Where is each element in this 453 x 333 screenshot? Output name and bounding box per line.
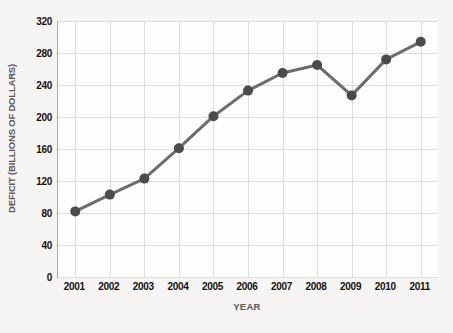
series-line	[75, 42, 420, 212]
y-axis-title-text: DEFICIT (BILLIONS OF DOLLARS)	[6, 64, 17, 213]
data-point-marker: 2001: 82	[70, 206, 80, 216]
y-axis-tick-label: 240	[36, 80, 52, 91]
y-axis-tick-label: 40	[41, 240, 52, 251]
x-axis-tick-label: 2007	[271, 281, 292, 292]
x-axis-title: YEAR	[57, 301, 437, 312]
data-point-marker: 2006: 233	[243, 86, 253, 96]
x-axis-tick-label: 2010	[375, 281, 396, 292]
deficit-series-svg: 2001: 822002: 1032003: 1232004: 1612005:…	[58, 21, 438, 277]
data-point-marker: 2005: 201	[208, 111, 218, 121]
x-axis-tick-label: 2005	[202, 281, 223, 292]
y-axis-tick-label: 120	[36, 176, 52, 187]
x-axis-tick-label: 2009	[340, 281, 361, 292]
data-point-marker: 2003: 123	[139, 174, 149, 184]
plot-area: 2001: 822002: 1032003: 1232004: 1612005:…	[57, 21, 438, 278]
data-point-marker: 2011: 294	[416, 37, 426, 47]
data-point-marker: 2004: 161	[174, 143, 184, 153]
y-axis-tick-label: 160	[36, 144, 52, 155]
data-point-marker: 2007: 255	[278, 68, 288, 78]
y-axis-title: DEFICIT (BILLIONS OF DOLLARS)	[0, 0, 22, 277]
data-point-marker: 2002: 103	[105, 190, 115, 200]
y-axis-tick-label: 200	[36, 112, 52, 123]
data-point-marker: 2010: 272	[381, 54, 391, 64]
x-axis-tick-label: 2003	[133, 281, 154, 292]
data-point-marker: 2008: 265	[312, 60, 322, 70]
y-axis-tick-label: 0	[47, 272, 52, 283]
x-axis-tick-label: 2011	[409, 281, 430, 292]
x-axis-tick-label: 2008	[306, 281, 327, 292]
y-axis-tick-label: 80	[41, 208, 52, 219]
x-axis-tick-label: 2001	[64, 281, 85, 292]
y-axis-tick-label: 280	[36, 48, 52, 59]
data-point-marker: 2009: 227	[347, 90, 357, 100]
deficit-line-chart: DEFICIT (BILLIONS OF DOLLARS) 0408012016…	[0, 0, 453, 333]
x-axis-tick-label: 2004	[167, 281, 188, 292]
y-axis-tick-labels: 04080120160200240280320	[22, 0, 55, 300]
gridline-horizontal	[58, 277, 438, 278]
x-axis-tick-label: 2002	[98, 281, 119, 292]
series-layer: 2001: 822002: 1032003: 1232004: 1612005:…	[58, 21, 438, 277]
x-axis-tick-label: 2006	[236, 281, 257, 292]
y-axis-tick-label: 320	[36, 16, 52, 27]
x-axis-tick-labels: 2001200220032004200520062007200820092010…	[57, 281, 437, 297]
